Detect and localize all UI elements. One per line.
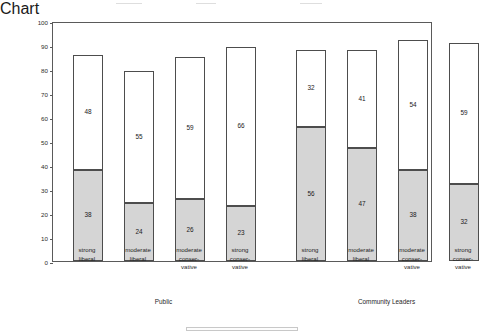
x-category-label-line: liberal [61, 255, 113, 264]
bar-value-label: 48 [84, 109, 91, 115]
x-category-label-line: vative [214, 263, 266, 272]
y-tick-mark-20 [50, 215, 53, 216]
x-category-label-line: conser- [163, 255, 215, 264]
y-tick-label-60: 60 [29, 116, 48, 122]
y-tick-label-70: 70 [29, 92, 48, 98]
bar-segment-bottom[interactable]: 56 [296, 127, 326, 261]
x-category-label-line: strong [61, 246, 113, 255]
x-category-label-line: liberal [335, 255, 387, 264]
x-category-label-line: strong [284, 246, 336, 255]
x-category-label: strongconser-vative [437, 246, 483, 272]
x-category-label: strongconser-vative [214, 246, 266, 272]
y-tick-label-30: 30 [29, 188, 48, 194]
bar-value-label: 32 [307, 85, 314, 91]
x-category-label-line: liberal [112, 255, 164, 264]
y-tick-label-80: 80 [29, 68, 48, 74]
bar-value-label: 38 [409, 212, 416, 218]
bar-value-label: 59 [460, 110, 467, 116]
bar-value-label: 41 [358, 96, 365, 102]
bar[interactable]: 3256 [296, 50, 326, 261]
bar[interactable]: 5524 [124, 71, 154, 261]
bar-value-label: 23 [237, 230, 244, 236]
y-tick-mark-50 [50, 143, 53, 144]
x-category-label: moderateliberal [335, 246, 387, 263]
bar[interactable]: 4838 [73, 55, 103, 261]
bar-value-label: 26 [186, 227, 193, 233]
x-category-label: moderateconser-vative [163, 246, 215, 272]
y-tick-label-0: 0 [29, 260, 48, 266]
x-category-label-line: vative [437, 263, 483, 272]
y-tick-mark-80 [50, 71, 53, 72]
bar-value-label: 56 [307, 191, 314, 197]
y-tick-label-20: 20 [29, 212, 48, 218]
y-tick-mark-10 [50, 239, 53, 240]
bar-value-label: 66 [237, 123, 244, 129]
bar-value-label: 47 [358, 201, 365, 207]
bar-value-label: 38 [84, 212, 91, 218]
y-tick-mark-0 [50, 263, 53, 264]
bar-value-label: 59 [186, 125, 193, 131]
x-category-label-line: moderate [386, 246, 438, 255]
y-tick-label-10: 10 [29, 236, 48, 242]
bar-segment-top[interactable]: 54 [398, 40, 428, 170]
y-tick-mark-100 [50, 23, 53, 24]
x-category-label-line: vative [163, 263, 215, 272]
bar-value-label: 54 [409, 102, 416, 108]
bar-segment-bottom[interactable]: 47 [347, 148, 377, 261]
bar-value-label: 24 [135, 229, 142, 235]
bar-segment-top[interactable]: 41 [347, 50, 377, 148]
bar-segment-top[interactable]: 59 [175, 57, 205, 199]
y-tick-label-40: 40 [29, 164, 48, 170]
x-category-label: moderateliberal [112, 246, 164, 263]
bar[interactable]: 4147 [347, 50, 377, 261]
bar[interactable]: 5932 [449, 43, 479, 261]
x-category-label-line: conser- [386, 255, 438, 264]
x-category-label-line: strong [214, 246, 266, 255]
bar-segment-top[interactable]: 48 [73, 55, 103, 170]
bar-segment-top[interactable]: 55 [124, 71, 154, 203]
x-category-label-line: conser- [437, 255, 483, 264]
x-category-label-line: vative [386, 263, 438, 272]
bar-segment-top[interactable]: 66 [226, 47, 256, 205]
y-tick-mark-60 [50, 119, 53, 120]
x-category-label-line: moderate [163, 246, 215, 255]
bar[interactable]: 5438 [398, 40, 428, 261]
x-category-label-line: conser- [214, 255, 266, 264]
footer-rule [186, 327, 298, 331]
x-category-label: strongliberal [284, 246, 336, 263]
x-group-label: Public [155, 298, 172, 305]
x-category-label: moderateconser-vative [386, 246, 438, 272]
x-category-label-line: moderate [112, 246, 164, 255]
x-category-label-line: strong [437, 246, 483, 255]
y-tick-mark-40 [50, 167, 53, 168]
x-category-label-line: liberal [284, 255, 336, 264]
y-tick-mark-30 [50, 191, 53, 192]
scan-artifact [116, 3, 142, 4]
bar-segment-top[interactable]: 59 [449, 43, 479, 185]
scan-artifact [300, 3, 322, 4]
y-tick-label-100: 100 [29, 20, 48, 26]
y-tick-label-50: 50 [29, 140, 48, 146]
x-category-label: strongliberal [61, 246, 113, 263]
y-tick-mark-90 [50, 47, 53, 48]
scan-artifact [196, 3, 216, 4]
bar[interactable]: 6623 [226, 47, 256, 261]
bar[interactable]: 5926 [175, 57, 205, 261]
plot-area: Percentage 0102030405060708090100 483855… [52, 22, 432, 262]
bar-segment-top[interactable]: 32 [296, 50, 326, 127]
bar-value-label: 32 [460, 219, 467, 225]
y-tick-label-90: 90 [29, 44, 48, 50]
x-category-label-line: moderate [335, 246, 387, 255]
bar-value-label: 55 [135, 134, 142, 140]
x-group-label: Community Leaders [358, 298, 415, 305]
y-tick-mark-70 [50, 95, 53, 96]
